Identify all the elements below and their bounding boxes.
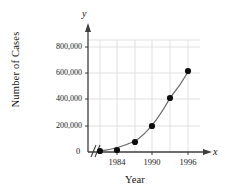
x-tick-label-1984: 1984 <box>100 158 134 167</box>
y-variable-label: y <box>82 8 86 19</box>
grid-vertical <box>100 40 188 152</box>
data-curve <box>100 72 188 151</box>
x-axis-title: Year <box>95 174 175 185</box>
x-tick-label-1996: 1996 <box>171 158 205 167</box>
x-tick-label-1990: 1990 <box>135 158 169 167</box>
data-point <box>149 123 155 129</box>
y-axis <box>85 23 91 152</box>
x-variable-label: x <box>213 146 217 157</box>
y-axis-title: Number of Cases <box>10 22 21 118</box>
y-tick-label-800000: 800,000 <box>24 43 82 51</box>
data-points <box>97 68 191 154</box>
y-tick-label-0: 0 <box>76 147 80 156</box>
grid-horizontal <box>88 40 200 126</box>
data-point <box>114 147 120 153</box>
data-point <box>97 148 103 154</box>
data-point <box>167 95 173 101</box>
data-point <box>132 139 138 145</box>
y-tick-label-400000: 400,000 <box>24 95 82 103</box>
chart-figure: y x 800,000 600,000 400,000 200,000 0 19… <box>0 0 225 192</box>
y-tick-label-200000: 200,000 <box>24 122 82 130</box>
data-point <box>185 68 191 74</box>
y-tick-label-600000: 600,000 <box>24 69 82 77</box>
